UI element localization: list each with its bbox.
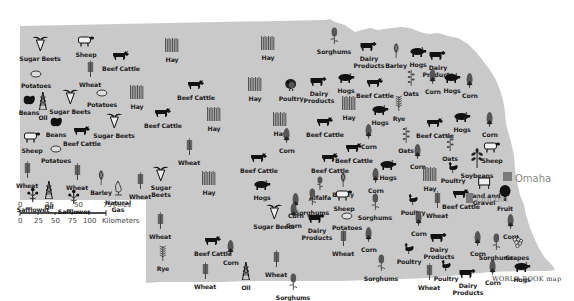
bean-icon	[23, 90, 36, 109]
symbol-label: Hogs	[443, 87, 460, 94]
map-symbol-wheat: Wheat	[178, 138, 200, 166]
map-symbol-corn: Corn	[223, 239, 239, 266]
symbol-label: Wheat	[178, 159, 200, 166]
wheat-icon	[426, 263, 433, 284]
sugar-beet-icon	[266, 203, 282, 223]
miles-tick-25: 25	[45, 201, 54, 209]
map-symbol-corn: Corn	[462, 72, 478, 99]
wheat-icon	[434, 191, 441, 212]
symbol-label: Poultry	[441, 177, 466, 184]
map-symbol-wheat: Wheat	[129, 172, 151, 200]
symbol-label: Beef Cattle	[144, 122, 182, 129]
sorghum-icon	[376, 254, 385, 275]
oats-icon	[446, 134, 454, 155]
symbol-label: Sheep	[21, 147, 42, 154]
map-credit: WORLD BOOK map	[492, 275, 561, 283]
symbol-label: Hay	[343, 114, 356, 121]
hay-icon	[130, 84, 144, 103]
symbol-label: Fruit	[497, 205, 513, 212]
symbol-label: Wheat	[418, 284, 440, 291]
map-symbol-sorghums: Sorghums	[276, 273, 310, 301]
sheep-icon	[336, 186, 353, 205]
symbol-label: Rye	[393, 115, 405, 122]
map-symbol-hogs: Hogs	[379, 155, 396, 181]
symbol-label: Beef Cattle	[177, 94, 215, 101]
map-symbol-poultry: Poultry	[397, 239, 422, 265]
miles-unit: Miles	[113, 201, 131, 209]
symbol-label: Sorghums	[276, 294, 310, 301]
map-symbol-rye: Rye	[157, 244, 169, 272]
sorghum-icon	[288, 273, 297, 294]
cattle-icon	[426, 113, 444, 132]
map-symbol-wheat: Wheat	[66, 163, 88, 191]
symbol-label: Wheat	[332, 250, 354, 257]
corn-icon	[283, 127, 290, 147]
map-symbol-dairy-products: DairyProducts	[304, 72, 335, 104]
rye-icon	[395, 94, 403, 115]
oats-icon	[407, 69, 415, 90]
bean-icon	[50, 112, 63, 131]
map-symbol-sorghums: Sorghums	[317, 27, 351, 55]
cattle-icon	[316, 112, 334, 131]
oats-icon	[402, 126, 410, 147]
map-symbol-hay: Hay	[423, 166, 437, 192]
symbol-label: DairyProducts	[302, 228, 333, 241]
chicken-icon	[447, 158, 459, 177]
dairy-cow-icon	[429, 46, 447, 65]
dairy-cow-icon	[310, 72, 328, 91]
map-symbol-beef-cattle: Beef Cattle	[102, 46, 140, 72]
map-symbol-sorghums: Sorghums	[364, 254, 398, 282]
symbol-label: Beef Cattle	[442, 203, 480, 210]
scale-bar-graphic	[18, 201, 158, 231]
symbol-label: Beef Cattle	[240, 167, 278, 174]
hay-icon	[342, 95, 356, 114]
hay-icon	[207, 106, 221, 125]
map-symbol-hay: Hay	[207, 106, 221, 132]
symbol-label: Sorghums	[364, 275, 398, 282]
symbol-label: Potatoes	[87, 101, 117, 108]
symbol-label: Beans	[19, 109, 40, 116]
sorghum-icon	[491, 233, 500, 254]
corn-icon	[365, 123, 372, 143]
map-symbol-hogs: Hogs	[337, 68, 354, 94]
map-symbol-corn: Corn	[279, 127, 295, 154]
map-symbol-corn: Corn	[361, 226, 377, 253]
map-symbol-hay: Hay	[248, 76, 262, 102]
map-symbol-hogs: Hogs	[443, 68, 460, 94]
rye-icon	[159, 244, 167, 265]
symbol-label: Hay	[249, 95, 262, 102]
sheep-icon	[78, 32, 95, 51]
corn-icon	[415, 210, 422, 230]
dairy-cow-icon	[430, 228, 448, 247]
dairy-cow-icon	[459, 264, 477, 283]
map-symbol-beef-cattle: Beef Cattle	[144, 103, 182, 129]
map-symbol-corn: Corn	[286, 202, 302, 229]
symbol-label: Corn	[279, 147, 295, 154]
symbol-label: Hay	[131, 103, 144, 110]
wheat-icon	[24, 161, 31, 182]
corn-icon	[290, 202, 297, 222]
symbol-label: Hogs	[253, 194, 270, 201]
corn-icon	[365, 226, 372, 246]
km-tick-50: 50	[51, 217, 60, 225]
map-symbol-dairy-products: DairyProducts	[453, 264, 484, 296]
symbol-label: Sheep	[75, 51, 96, 58]
sorghum-icon	[370, 193, 379, 214]
symbol-label: Wheat	[426, 212, 448, 219]
wheat-icon	[74, 163, 81, 184]
hog-icon	[338, 68, 355, 87]
symbol-label: Wheat	[129, 193, 151, 200]
map-symbol-hogs: Hogs	[453, 107, 470, 133]
symbol-label: Oats	[403, 90, 419, 97]
map-symbol-oats: Oats	[403, 69, 419, 97]
map-symbol-sugar-beets: Sugar Beets	[93, 112, 134, 139]
symbol-label: Corn	[425, 88, 441, 95]
oil-derrick-icon	[241, 262, 250, 284]
map-symbol-poultry: Poultry	[279, 76, 304, 102]
potato-icon	[50, 138, 62, 157]
map-symbol-beef-cattle: Beef Cattle	[306, 112, 344, 138]
map-symbol-poultry: Poultry	[441, 158, 466, 184]
symbol-label: Beef Cattle	[356, 92, 394, 99]
wheat-icon	[87, 60, 94, 81]
dairy-cow-icon	[308, 209, 326, 228]
